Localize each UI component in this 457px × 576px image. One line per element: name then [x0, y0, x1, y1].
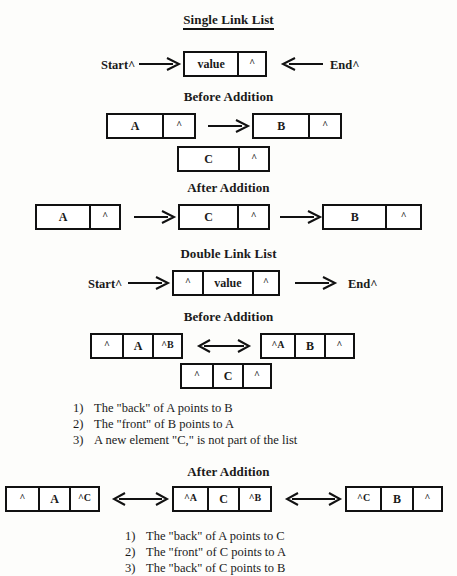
arrow-bidirectional-a-b-double-before: [198, 339, 250, 353]
note-row: 3) A new element "C," is not part of the…: [73, 432, 297, 448]
double-before-node-c-value: C: [212, 365, 242, 387]
arrow-start-to-node-double: [128, 276, 170, 290]
double-after-node-c: ^A C ^B: [172, 486, 272, 512]
note-row: 1) The "back" of A points to B: [73, 400, 297, 416]
note-number: 3): [125, 560, 146, 576]
double-after-node-a: ^ A ^C: [5, 486, 100, 512]
note-number: 2): [73, 416, 94, 432]
double-before-node-c: ^ C ^: [180, 363, 272, 389]
note-text: The "back" of A points to B: [94, 400, 233, 416]
single-link-list-title: Single Link List: [0, 12, 457, 28]
note-row: 1) The "back" of A points to C: [125, 528, 286, 544]
single-after-node-c: C ^: [178, 204, 270, 230]
note-text: The "back" of C points to B: [146, 560, 285, 576]
double-after-notes: 1) The "back" of A points to C 2) The "f…: [125, 528, 286, 576]
double-after-node-b-value: B: [380, 488, 411, 510]
double-before-node-b-back: ^: [324, 335, 353, 357]
single-start-label: Start^: [101, 59, 135, 72]
note-number: 1): [73, 400, 94, 416]
double-after-node-a-value: A: [38, 488, 69, 510]
double-before-node-b: ^A B ^: [260, 333, 355, 359]
note-row: 2) The "front" of B points to A: [73, 416, 297, 432]
note-text: The "back" of A points to C: [146, 528, 285, 544]
arrow-bidirectional-a-c-double-after: [113, 492, 168, 506]
double-value-front-pointer: ^: [174, 272, 202, 294]
single-before-node-c-value: C: [179, 148, 238, 170]
double-after-node-c-value: C: [207, 488, 238, 510]
arrow-a-to-c-single-after: [134, 210, 176, 224]
single-after-node-b-value: B: [324, 206, 385, 228]
single-after-node-a-value: A: [37, 206, 89, 228]
single-after-node-a-pointer: ^: [89, 206, 119, 228]
note-row: 3) The "back" of C points to B: [125, 560, 286, 576]
single-value-node: value ^: [183, 51, 267, 77]
single-after-node-c-pointer: ^: [237, 206, 268, 228]
single-before-node-b: B ^: [252, 113, 342, 139]
double-after-node-a-front: ^: [7, 488, 38, 510]
arrow-start-to-node-single: [139, 57, 181, 71]
note-row: 2) The "front" of C points to A: [125, 544, 286, 560]
double-after-node-b-front: ^C: [347, 488, 380, 510]
arrow-a-to-b-single-before: [208, 119, 250, 133]
double-before-addition-title: Before Addition: [0, 309, 457, 325]
note-number: 3): [73, 432, 94, 448]
note-text: The "front" of B points to A: [94, 416, 234, 432]
double-before-node-a-value: A: [122, 335, 152, 357]
single-before-node-b-pointer: ^: [308, 115, 340, 137]
double-before-node-b-front: ^A: [262, 335, 294, 357]
single-before-node-b-value: B: [254, 115, 308, 137]
single-before-node-a-pointer: ^: [162, 115, 194, 137]
double-before-node-c-back: ^: [242, 365, 270, 387]
note-number: 1): [125, 528, 146, 544]
double-before-node-a-front: ^: [92, 335, 122, 357]
arrow-node-to-end-double: [295, 276, 337, 290]
arrow-bidirectional-c-b-double-after: [286, 492, 341, 506]
single-before-addition-title: Before Addition: [0, 89, 457, 105]
double-before-node-a-back: ^B: [152, 335, 181, 357]
double-before-notes: 1) The "back" of A points to B 2) The "f…: [73, 400, 297, 448]
note-text: The "front" of C points to A: [146, 544, 286, 560]
double-after-node-b: ^C B ^: [345, 486, 443, 512]
double-link-list-title: Double Link List: [0, 246, 457, 262]
arrow-c-to-b-single-after: [280, 210, 322, 224]
single-before-node-c: C ^: [177, 146, 270, 172]
single-after-node-b: B ^: [322, 204, 422, 230]
double-after-node-b-back: ^: [412, 488, 441, 510]
double-before-node-c-front: ^: [182, 365, 212, 387]
double-after-node-c-back: ^B: [238, 488, 270, 510]
double-before-node-b-value: B: [294, 335, 324, 357]
double-end-label: End^: [348, 278, 378, 291]
single-before-node-a-value: A: [108, 115, 162, 137]
double-after-node-c-front: ^A: [174, 488, 207, 510]
single-after-node-b-pointer: ^: [385, 206, 420, 228]
single-after-node-c-value: C: [180, 206, 237, 228]
double-start-label: Start^: [88, 278, 122, 291]
double-before-node-a: ^ A ^B: [90, 333, 183, 359]
note-number: 2): [125, 544, 146, 560]
double-value-node: ^ value ^: [172, 270, 280, 296]
arrow-end-to-node-single: [281, 57, 323, 71]
single-value-cell: value: [185, 53, 237, 75]
single-value-pointer-cell: ^: [237, 53, 265, 75]
double-after-node-a-back: ^C: [69, 488, 98, 510]
single-before-node-a: A ^: [106, 113, 196, 139]
single-after-node-a: A ^: [35, 204, 121, 230]
double-value-cell: value: [202, 272, 252, 294]
single-before-node-c-pointer: ^: [238, 148, 268, 170]
single-end-label: End^: [330, 59, 360, 72]
double-after-addition-title: After Addition: [0, 464, 457, 480]
single-after-addition-title: After Addition: [0, 180, 457, 196]
double-value-back-pointer: ^: [252, 272, 278, 294]
note-text: A new element "C," is not part of the li…: [94, 432, 297, 448]
